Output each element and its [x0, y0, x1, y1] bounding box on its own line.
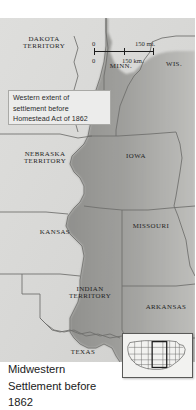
place-label-text: MINN. [110, 62, 132, 69]
scale-bar-miles-value: 150 mi. [135, 40, 155, 47]
place-label-wisconsin: WIS. [166, 60, 182, 67]
place-label-text: IOWA [126, 152, 146, 159]
place-label-text: DAKOTA [23, 35, 65, 42]
place-label-text: NEBRASKA [24, 150, 66, 157]
scale-bar-tick-mid [124, 48, 125, 55]
caption-line-2: Settlement before [8, 378, 123, 395]
scale-bar-km-zero: 0 [92, 57, 95, 64]
place-label-indian-territory: INDIANTERRITORY [69, 285, 111, 299]
map-canvas: 0 150 mi. 0 150 km. Western extent of se… [0, 18, 195, 362]
annotation-line-1: Western extent of [13, 93, 107, 104]
place-label-text: WIS. [166, 60, 182, 67]
place-label-text: TEXAS [71, 348, 95, 355]
scale-bar-miles-zero: 0 [92, 40, 95, 47]
place-label-text: TERRITORY [24, 157, 66, 164]
place-label-text: TERRITORY [23, 42, 65, 49]
locator-map-graphic [123, 334, 192, 377]
place-label-missouri: MISSOURI [133, 222, 170, 229]
scale-bar-tick-end [153, 48, 154, 55]
caption-line-3: 1862 [8, 394, 123, 410]
place-label-text: INDIAN [69, 285, 111, 292]
place-label-text: MISSOURI [133, 222, 170, 229]
scale-bar-tick-start [94, 48, 95, 55]
place-label-texas: TEXAS [71, 348, 95, 355]
place-label-text: KANSAS [40, 228, 70, 235]
place-label-text: ARKANSAS [146, 303, 187, 310]
annotation-line-3: Homestead Act of 1862 [13, 114, 107, 125]
figure-caption: Midwestern Settlement before 1862 [8, 361, 123, 410]
united-states-locator-map [122, 333, 193, 378]
place-label-text: TERRITORY [69, 292, 111, 299]
annotation-line-2: settlement before [13, 104, 107, 115]
place-label-iowa: IOWA [126, 152, 146, 159]
place-label-dakota-territory: DAKOTATERRITORY [23, 35, 65, 49]
place-label-arkansas: ARKANSAS [146, 303, 187, 310]
place-label-kansas: KANSAS [40, 228, 70, 235]
place-label-nebraska-territory: NEBRASKATERRITORY [24, 150, 66, 164]
place-label-minnesota: MINN. [110, 62, 132, 69]
settlement-annotation-callout: Western extent of settlement before Home… [8, 90, 111, 125]
caption-line-1: Midwestern [8, 361, 123, 378]
